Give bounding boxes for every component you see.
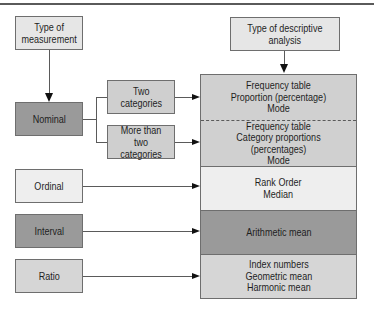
- connector-line: [175, 142, 193, 143]
- connector-line: [83, 186, 193, 187]
- ordinal-label: Ordinal: [34, 180, 63, 192]
- nominal-box: Nominal: [15, 102, 83, 136]
- analysis-ratio: Index numbers Geometric mean Harmonic me…: [201, 254, 356, 298]
- analysis-nominal-two: Frequency table Proportion (percentage) …: [201, 75, 356, 120]
- connector-line: [96, 97, 107, 98]
- two-categories-label: Two categories: [120, 85, 162, 109]
- more-than-two-categories-box: More than two categories: [107, 125, 175, 159]
- analysis-interval-label: Arithmetic mean: [246, 227, 311, 239]
- analysis-ordinal: Rank Order Median: [201, 166, 356, 210]
- arrow-right-icon: [192, 273, 200, 279]
- analysis-column: Frequency table Proportion (percentage) …: [200, 74, 357, 299]
- interval-label: Interval: [34, 225, 64, 237]
- analysis-ratio-label: Index numbers Geometric mean Harmonic me…: [245, 259, 312, 294]
- nominal-label: Nominal: [32, 113, 65, 125]
- type-of-descriptive-analysis-box: Type of descriptive analysis: [230, 17, 340, 51]
- two-categories-box: Two categories: [107, 80, 175, 114]
- analysis-nominal-multi-label: Frequency table Category proportions (pe…: [212, 121, 345, 167]
- ratio-label: Ratio: [38, 270, 59, 282]
- arrow-right-icon: [192, 139, 200, 145]
- arrow-right-icon: [192, 228, 200, 234]
- connector-line: [96, 142, 107, 143]
- arrow-right-icon: [192, 94, 200, 100]
- arrow-right-icon: [192, 183, 200, 189]
- connector-line: [49, 50, 50, 95]
- top-rule: [0, 3, 374, 5]
- ratio-box: Ratio: [15, 259, 83, 293]
- connector-line: [83, 231, 193, 232]
- connector-line: [96, 97, 97, 143]
- analysis-nominal-multi: Frequency table Category proportions (pe…: [201, 120, 356, 166]
- type-of-measurement-label: Type of measurement: [21, 21, 76, 45]
- connector-line: [83, 119, 96, 120]
- ordinal-box: Ordinal: [15, 169, 83, 203]
- arrow-down-icon: [280, 64, 288, 73]
- more-than-two-categories-label: More than two categories: [113, 124, 170, 160]
- connector-line: [83, 276, 193, 277]
- connector-line: [175, 97, 193, 98]
- analysis-ordinal-label: Rank Order Median: [255, 177, 302, 200]
- type-of-descriptive-analysis-label: Type of descriptive analysis: [247, 22, 322, 46]
- analysis-nominal-two-label: Frequency table Proportion (percentage) …: [231, 80, 326, 115]
- interval-box: Interval: [15, 214, 83, 248]
- analysis-interval: Arithmetic mean: [201, 210, 356, 254]
- type-of-measurement-box: Type of measurement: [15, 16, 83, 50]
- arrow-down-icon: [45, 93, 53, 102]
